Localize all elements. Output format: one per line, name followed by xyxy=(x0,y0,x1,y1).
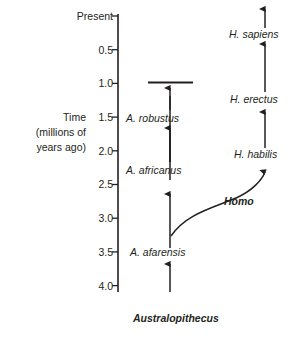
axis-tick-label-3-5: 3.5 xyxy=(98,247,113,258)
axis-tick-label-1-5: 1.5 xyxy=(98,112,113,123)
axis-tick-label-1-0: 1.0 xyxy=(98,78,113,89)
species-label-a-robustus: A. robustus xyxy=(126,113,179,124)
hominin-phylogeny-figure: Present 0.5 1.0 1.5 2.0 2.5 3.0 3.5 4.0 … xyxy=(0,0,302,344)
axis-tick-label-0-5: 0.5 xyxy=(98,45,113,56)
axis-tick-label-3-0: 3.0 xyxy=(98,213,113,224)
species-label-h-erectus: H. erectus xyxy=(230,94,278,105)
species-label-a-afarensis: A. afarensis xyxy=(130,247,185,258)
axis-tick-label-present: Present xyxy=(77,11,113,22)
species-label-h-sapiens: H. sapiens xyxy=(229,29,279,40)
genus-label-australopithecus: Australopithecus xyxy=(133,313,219,324)
axis-title-line-3: years ago) xyxy=(36,142,86,153)
axis-tick-label-2-5: 2.5 xyxy=(98,179,113,190)
axis-title-line-1: Time xyxy=(63,112,86,123)
axis-tick-label-2-0: 2.0 xyxy=(98,146,113,157)
axis-tick-label-4-0: 4.0 xyxy=(98,281,113,292)
species-label-a-africanus: A. africanus xyxy=(126,165,181,176)
axis-title-line-2: (millions of xyxy=(36,127,86,138)
genus-label-homo: Homo xyxy=(224,196,254,207)
species-label-h-habilis: H. habilis xyxy=(234,149,277,160)
